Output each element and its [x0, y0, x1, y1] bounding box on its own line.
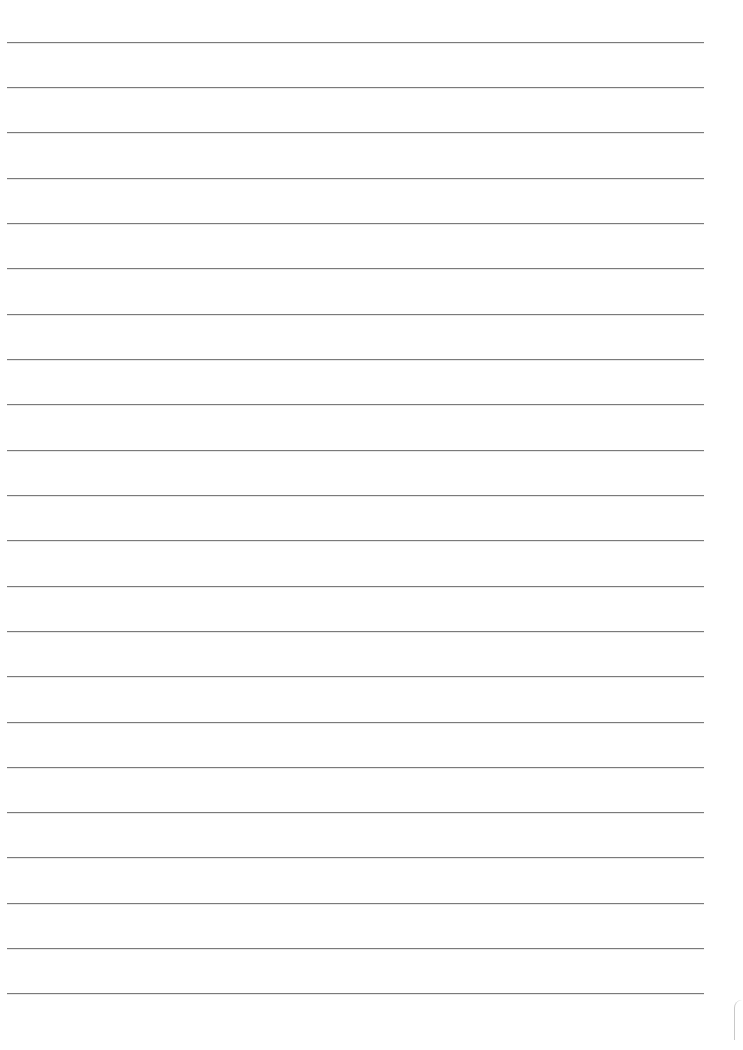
ruled-line — [7, 631, 704, 632]
ruled-line — [7, 903, 704, 904]
lined-paper-page — [0, 0, 743, 1050]
ruled-line — [7, 178, 704, 179]
ruled-line — [7, 450, 704, 451]
ruled-line — [7, 87, 704, 88]
ruled-line — [7, 132, 704, 133]
ruled-line — [7, 993, 704, 994]
ruled-line — [7, 268, 704, 269]
ruled-line — [7, 223, 704, 224]
ruled-line — [7, 676, 704, 677]
ruled-line — [7, 314, 704, 315]
ruled-line — [7, 767, 704, 768]
ruled-line — [7, 404, 704, 405]
ruled-line — [7, 857, 704, 858]
ruled-line — [7, 586, 704, 587]
ruled-line — [7, 495, 704, 496]
ruled-line — [7, 948, 704, 949]
ruled-line — [7, 42, 704, 43]
ruled-line — [7, 359, 704, 360]
page-corner-edge — [734, 1000, 743, 1040]
ruled-line — [7, 722, 704, 723]
ruled-line — [7, 540, 704, 541]
ruled-line — [7, 812, 704, 813]
